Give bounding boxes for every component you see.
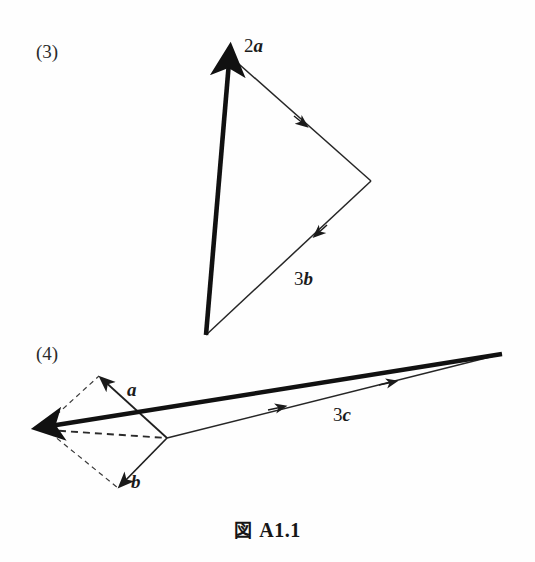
dashed-edge-diagonal (47, 430, 167, 438)
part-4-geometry (43, 354, 502, 488)
label-3b-coefficient: 3 (294, 268, 304, 289)
edge-3c (167, 354, 502, 438)
edge-3b-lower-right (206, 181, 371, 335)
resultant-vector-3 (206, 62, 229, 335)
label-a: a (127, 380, 137, 399)
label-2a: 2a (244, 36, 263, 55)
part-3-geometry (206, 57, 371, 335)
label-3c: 3c (333, 405, 351, 424)
figure-caption-symbol: 図 (234, 520, 252, 541)
label-3b-symbol: b (304, 268, 314, 289)
label-3c-coefficient: 3 (333, 404, 343, 425)
label-b: b (131, 472, 141, 491)
dashed-edge-bottom-left (43, 427, 118, 488)
vector-diagram-canvas (0, 0, 535, 562)
label-b-symbol: b (131, 471, 141, 492)
part-number-3: (3) (36, 42, 58, 61)
label-3c-symbol: c (343, 404, 351, 425)
label-2a-coefficient: 2 (244, 35, 254, 56)
label-3b: 3b (294, 269, 313, 288)
vector-b (120, 438, 167, 486)
label-a-symbol: a (127, 379, 137, 400)
figure-caption-number: A1.1 (252, 519, 300, 541)
figure-caption: 図A1.1 (0, 516, 535, 542)
part-number-4: (4) (36, 344, 58, 363)
label-2a-symbol: a (254, 35, 264, 56)
edge-2a-upper-right (231, 57, 371, 181)
resultant-vector-4 (50, 354, 502, 426)
figure-container: (3) 2a 3b (4) a b 3c 図A1.1 (0, 0, 535, 562)
